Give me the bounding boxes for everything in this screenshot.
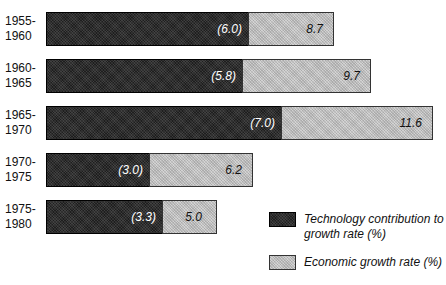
bar-technology-contribution: (6.0) — [46, 12, 249, 46]
value-label: 9.7 — [343, 60, 360, 92]
value-label: (5.8) — [211, 60, 236, 92]
value-label: (3.0) — [118, 154, 143, 186]
bar-technology-contribution: (3.3) — [46, 200, 163, 234]
category-label: 1960-1965 — [5, 61, 43, 91]
value-label: 11.6 — [400, 107, 422, 139]
legend-label-economic: Economic growth rate (%) — [304, 255, 442, 270]
category-label: 1965-1970 — [5, 108, 43, 138]
value-label: (3.3) — [131, 201, 156, 233]
bar-technology-contribution: (5.8) — [46, 59, 243, 93]
bar-technology-contribution: (7.0) — [46, 106, 282, 140]
value-label: (7.0) — [250, 107, 275, 139]
value-label: 6.2 — [225, 154, 242, 186]
category-label: 1970-1975 — [5, 155, 43, 185]
legend-swatch-economic — [269, 255, 296, 270]
bar-economic-growth: 5.0 — [162, 200, 217, 234]
legend-label-technology: Technology contribution to growth rate (… — [304, 212, 444, 242]
bar-economic-growth: 8.7 — [248, 12, 334, 46]
value-label: 5.0 — [185, 201, 202, 233]
bar-economic-growth: 9.7 — [242, 59, 371, 93]
value-label: 8.7 — [306, 13, 323, 45]
category-label: 1975-1980 — [5, 202, 43, 232]
category-label: 1955-1960 — [5, 14, 43, 44]
bar-economic-growth: 11.6 — [281, 106, 433, 140]
bar-economic-growth: 6.2 — [149, 153, 253, 187]
bar-technology-contribution: (3.0) — [46, 153, 150, 187]
value-label: (6.0) — [217, 13, 242, 45]
legend-swatch-technology — [269, 212, 296, 227]
